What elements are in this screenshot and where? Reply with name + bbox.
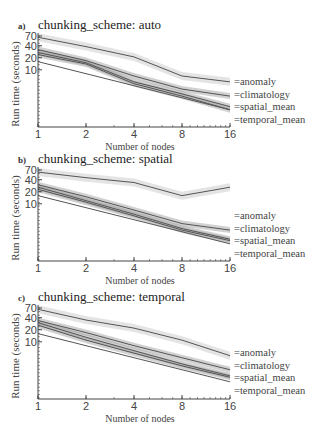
x-tick-label: 16 <box>224 400 236 412</box>
x-tick-label: 2 <box>83 262 89 274</box>
legend-item-temporal-mean: =temporal_mean <box>234 114 305 127</box>
x-tick-label: 8 <box>179 128 185 140</box>
x-tick-label: 1 <box>35 400 41 412</box>
legend-item-anomaly: =anomaly <box>234 210 305 223</box>
y-tick-label: 20 <box>25 186 37 198</box>
legend-item-climatology: =climatology <box>234 360 305 373</box>
x-axis-label: Number of nodes <box>100 413 180 424</box>
x-tick-label: 1 <box>35 262 41 274</box>
x-tick-label: 16 <box>224 262 236 274</box>
legend-item-spatial-mean: =spatial_mean <box>234 101 305 114</box>
legend-item-anomaly: =anomaly <box>234 76 305 89</box>
x-tick-label: 2 <box>83 400 89 412</box>
series-line-ideal-scaling <box>38 62 230 110</box>
x-tick-label: 1 <box>35 128 41 140</box>
y-tick-label: 20 <box>25 52 37 64</box>
panel-b: b) chunking_scheme: spatial Run time (se… <box>0 150 314 290</box>
x-tick-label: 8 <box>179 262 185 274</box>
y-tick-label: 20 <box>25 324 37 336</box>
legend-item-climatology: =climatology <box>234 223 305 236</box>
x-tick-label: 16 <box>224 128 236 140</box>
legend-item-temporal-mean: =temporal_mean <box>234 385 305 398</box>
legend: =anomaly =climatology =spatial_mean =tem… <box>234 347 305 397</box>
legend: =anomaly =climatology =spatial_mean =tem… <box>234 210 305 260</box>
x-tick-label: 4 <box>131 262 137 274</box>
y-tick-label: 10 <box>25 198 37 210</box>
y-tick-label: 10 <box>25 64 37 76</box>
legend-item-spatial-mean: =spatial_mean <box>234 235 305 248</box>
x-tick-label: 4 <box>131 128 137 140</box>
legend-item-temporal-mean: =temporal_mean <box>234 248 305 261</box>
legend: =anomaly =climatology =spatial_mean =tem… <box>234 76 305 126</box>
x-tick-label: 4 <box>131 400 137 412</box>
legend-item-spatial-mean: =spatial_mean <box>234 372 305 385</box>
legend-item-climatology: =climatology <box>234 89 305 102</box>
series-line-ideal-scaling <box>38 196 230 244</box>
series-line-ideal-scaling <box>38 334 230 382</box>
x-axis-label: Number of nodes <box>100 275 180 286</box>
panel-a: a) chunking_scheme: auto Run time (secon… <box>0 0 314 145</box>
y-tick-label: 40 <box>25 174 37 186</box>
x-tick-label: 2 <box>83 128 89 140</box>
x-tick-label: 8 <box>179 400 185 412</box>
y-tick-label: 40 <box>25 40 37 52</box>
legend-item-anomaly: =anomaly <box>234 347 305 360</box>
y-tick-label: 40 <box>25 312 37 324</box>
panel-c: c) chunking_scheme: temporal Run time (s… <box>0 288 314 431</box>
y-tick-label: 10 <box>25 336 37 348</box>
